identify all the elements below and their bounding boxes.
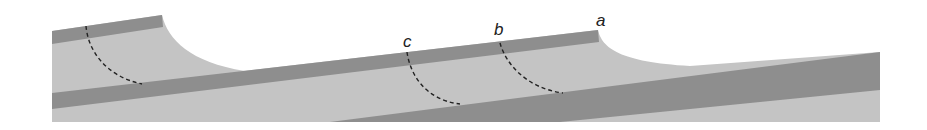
label-c: c <box>403 32 412 51</box>
cross-section-diagram: a b c <box>0 0 927 130</box>
label-a: a <box>596 11 605 30</box>
label-b: b <box>494 20 503 39</box>
